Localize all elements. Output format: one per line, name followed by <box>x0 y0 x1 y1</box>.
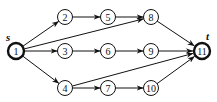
node-8: 8 <box>144 10 159 25</box>
node-7: 7 <box>101 81 116 96</box>
node-10: 10 <box>144 81 159 96</box>
node-label: 6 <box>106 46 111 57</box>
node-label: 5 <box>106 12 111 23</box>
node-2: 2 <box>58 10 73 25</box>
edge-4-to-11 <box>72 53 193 86</box>
sink-label: t <box>206 30 210 42</box>
edge-8-to-11 <box>157 21 194 46</box>
source-label: s <box>5 31 10 43</box>
node-label: 8 <box>149 12 154 23</box>
directed-graph: 1234567891011 s t <box>0 0 217 102</box>
node-11: 11 <box>194 43 210 59</box>
node-4: 4 <box>58 81 73 96</box>
node-label: 9 <box>149 46 154 57</box>
edge-10-to-11 <box>157 56 195 83</box>
node-9: 9 <box>144 44 159 59</box>
node-label: 11 <box>197 46 207 57</box>
node-3: 3 <box>58 44 73 59</box>
node-5: 5 <box>101 10 116 25</box>
node-6: 6 <box>101 44 116 59</box>
node-label: 10 <box>146 83 156 94</box>
edge-1-to-2 <box>23 21 59 46</box>
node-1: 1 <box>8 43 24 59</box>
nodes-layer: 1234567891011 <box>8 10 210 96</box>
edge-1-to-4 <box>23 56 59 83</box>
node-label: 2 <box>63 12 68 23</box>
edge-1-to-8 <box>24 19 143 49</box>
node-label: 4 <box>63 83 68 94</box>
node-label: 7 <box>106 83 111 94</box>
node-label: 1 <box>14 46 19 57</box>
node-label: 3 <box>63 46 68 57</box>
